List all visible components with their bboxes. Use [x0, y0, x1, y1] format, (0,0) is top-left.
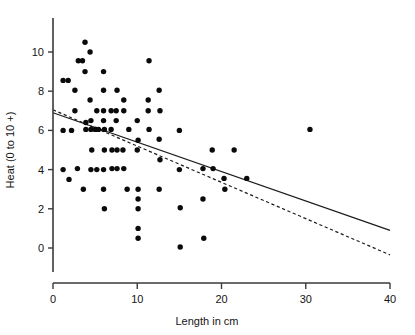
data-point — [121, 108, 126, 113]
data-point — [113, 108, 118, 113]
data-point — [82, 69, 87, 74]
data-point — [135, 226, 140, 231]
data-point — [146, 97, 151, 102]
data-point — [88, 167, 93, 172]
data-point — [201, 236, 206, 241]
data-point — [135, 147, 140, 152]
data-point — [89, 147, 94, 152]
data-point — [69, 128, 74, 133]
data-point — [66, 177, 71, 182]
data-point — [124, 187, 129, 192]
data-point — [94, 167, 99, 172]
data-points — [60, 40, 312, 250]
data-point — [156, 187, 161, 192]
data-point — [102, 147, 107, 152]
data-point — [156, 137, 161, 142]
y-tick-label: 6 — [38, 124, 44, 136]
data-point — [177, 128, 182, 133]
data-point — [81, 187, 86, 192]
data-point — [109, 166, 114, 171]
data-point — [65, 78, 70, 83]
data-point — [120, 147, 125, 152]
y-tick-label: 10 — [32, 46, 44, 58]
data-point — [178, 244, 183, 249]
data-point — [72, 88, 77, 93]
x-tick-label: 20 — [215, 293, 227, 305]
data-point — [80, 58, 85, 63]
data-point — [210, 147, 215, 152]
data-point — [88, 118, 93, 123]
data-point — [75, 166, 80, 171]
x-tick-label: 0 — [50, 293, 56, 305]
data-point — [87, 49, 92, 54]
data-point — [94, 108, 99, 113]
data-point — [135, 118, 140, 123]
scatter-chart: 0246810010203040 Length in cm Heat (0 to… — [0, 0, 415, 335]
data-point — [135, 138, 140, 143]
data-point — [178, 205, 183, 210]
data-point — [146, 58, 151, 63]
data-point — [177, 167, 182, 172]
data-point — [135, 236, 140, 241]
data-point — [108, 108, 113, 113]
y-tick-label: 8 — [38, 85, 44, 97]
data-point — [210, 166, 215, 171]
data-point — [82, 40, 87, 45]
x-tick-label: 40 — [384, 293, 396, 305]
data-point — [60, 167, 65, 172]
y-tick-label: 2 — [38, 203, 44, 215]
data-point — [222, 187, 227, 192]
data-point — [83, 127, 88, 132]
data-point — [231, 147, 236, 152]
data-point — [101, 167, 106, 172]
data-point — [156, 88, 161, 93]
tick-labels: 0246810010203040 — [32, 46, 396, 305]
data-point — [96, 127, 101, 132]
data-point — [114, 147, 119, 152]
data-point — [108, 127, 113, 132]
data-point — [60, 78, 65, 83]
data-point — [114, 88, 119, 93]
x-tick-label: 10 — [131, 293, 143, 305]
data-point — [244, 176, 249, 181]
data-point — [101, 69, 106, 74]
data-point — [200, 196, 205, 201]
data-point — [157, 157, 162, 162]
axes — [48, 18, 390, 289]
data-point — [157, 108, 162, 113]
data-point — [135, 206, 140, 211]
x-axis-title: Length in cm — [176, 315, 239, 327]
x-tick-label: 30 — [300, 293, 312, 305]
data-point — [101, 187, 106, 192]
data-point — [121, 97, 126, 102]
data-point — [72, 108, 77, 113]
data-point — [83, 120, 88, 125]
data-point — [113, 118, 118, 123]
data-point — [146, 127, 151, 132]
y-tick-label: 4 — [38, 164, 44, 176]
data-point — [307, 127, 312, 132]
data-point — [221, 176, 226, 181]
data-point — [101, 88, 106, 93]
data-point — [135, 187, 140, 192]
data-point — [87, 97, 92, 102]
y-axis-title: Heat (0 to 10 +) — [4, 112, 16, 189]
data-point — [102, 206, 107, 211]
data-point — [146, 108, 151, 113]
data-point — [109, 147, 114, 152]
y-tick-label: 0 — [38, 242, 44, 254]
data-point — [60, 128, 65, 133]
data-point — [200, 166, 205, 171]
plot-canvas: 0246810010203040 Length in cm Heat (0 to… — [0, 0, 415, 335]
data-point — [126, 127, 131, 132]
data-point — [102, 127, 107, 132]
data-point — [114, 166, 119, 171]
data-point — [101, 108, 106, 113]
data-point — [121, 166, 126, 171]
data-point — [101, 118, 106, 123]
data-point — [135, 196, 140, 201]
